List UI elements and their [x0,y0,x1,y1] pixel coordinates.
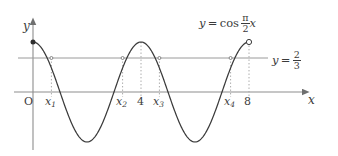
tick-label-x1: x1 [45,96,56,108]
tick-base-8: 8 [244,95,251,108]
marker-x1 [50,57,53,60]
tick-label-x2: x2 [116,96,127,108]
formula-equals: = [208,16,218,30]
tick-sub-x3: 3 [159,100,164,109]
level-fraction: 23 [293,50,301,71]
tick-sub-x2: 2 [122,100,127,109]
level-equals: = [281,53,291,67]
level-denominator: 3 [293,60,301,71]
math-figure: y x O x1 x2 4 x3 x4 8 y = cos π2x y = 23 [0,0,338,156]
curve-formula-label: y = cos π2x [199,14,256,35]
plot-overlay [0,0,338,156]
endpoint-filled-dot [31,40,36,45]
tick-label-8: 8 [244,96,251,107]
formula-denominator: 2 [241,23,249,34]
formula-variable: x [250,16,257,30]
x-axis-label: x [308,94,315,106]
tick-label-x4: x4 [224,96,235,108]
tick-sub-x1: 1 [51,100,56,109]
origin-label: O [24,96,33,107]
marker-x3 [158,57,161,60]
endpoint-open-circle [246,39,251,44]
y-axis-label: y [23,20,30,32]
marker-x4 [229,57,232,60]
level-line-label: y = 23 [272,51,301,72]
formula-function: cos [220,16,239,30]
tick-base-4: 4 [137,95,144,108]
formula-fraction: π2 [241,13,249,34]
formula-numerator: π [241,13,249,23]
tick-label-x3: x3 [153,96,164,108]
level-numerator: 2 [293,50,301,60]
tick-sub-x4: 4 [230,100,235,109]
marker-x2 [121,57,124,60]
tick-label-4: 4 [137,96,144,107]
